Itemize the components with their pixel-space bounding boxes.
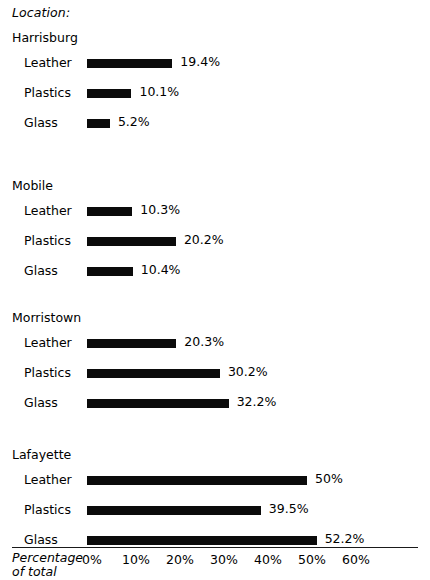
bar-row: Plastics10.1%: [0, 82, 430, 104]
bar-value-label: 39.5%: [269, 501, 309, 516]
x-axis-tick-label: 60%: [342, 552, 370, 567]
bar-row: Plastics30.2%: [0, 362, 430, 384]
x-axis-title-line1: Percentage: [12, 551, 83, 565]
bar-value-label: 10.1%: [139, 84, 179, 99]
bar: [87, 237, 176, 246]
bar-track: [87, 476, 307, 485]
x-axis-tick-label: 40%: [254, 552, 282, 567]
bar-row: Glass10.4%: [0, 260, 430, 282]
bar-value-label: 50%: [315, 471, 343, 486]
bar-value-label: 10.3%: [140, 202, 180, 217]
bar-category-label: Plastics: [24, 502, 71, 517]
bar-category-label: Glass: [24, 263, 58, 278]
bar: [87, 89, 131, 98]
x-axis-tick-label: 20%: [166, 552, 194, 567]
bar-value-label: 10.4%: [141, 262, 181, 277]
group-title: Lafayette: [12, 447, 71, 462]
bar-track: [87, 267, 133, 276]
group-title: Morristown: [12, 310, 81, 325]
x-axis-tick-label: 30%: [210, 552, 238, 567]
bar-row: Leather20.3%: [0, 332, 430, 354]
bar-value-label: 32.2%: [237, 394, 277, 409]
bar-track: [87, 59, 172, 68]
bar: [87, 506, 261, 515]
bar-category-label: Plastics: [24, 365, 71, 380]
bar-row: Glass32.2%: [0, 392, 430, 414]
bar-row: Glass5.2%: [0, 112, 430, 134]
bar-value-label: 5.2%: [118, 114, 150, 129]
bar-category-label: Leather: [24, 472, 72, 487]
x-axis-title-line2: of total: [12, 565, 83, 579]
bar-row: Plastics39.5%: [0, 499, 430, 521]
bar-track: [87, 237, 176, 246]
bar-category-label: Plastics: [24, 233, 71, 248]
bar: [87, 476, 307, 485]
bar-chart: Location: HarrisburgLeather19.4%Plastics…: [0, 0, 430, 580]
bar: [87, 369, 220, 378]
x-axis-line: [12, 547, 418, 548]
bar-track: [87, 207, 132, 216]
bar-category-label: Leather: [24, 203, 72, 218]
bar-value-label: 30.2%: [228, 364, 268, 379]
bar-category-label: Glass: [24, 532, 58, 547]
bar-value-label: 20.3%: [184, 334, 224, 349]
bar: [87, 399, 229, 408]
chart-group: HarrisburgLeather19.4%Plastics10.1%Glass…: [0, 30, 430, 135]
bar-track: [87, 506, 261, 515]
bar-row: Leather10.3%: [0, 200, 430, 222]
bar-row: Plastics20.2%: [0, 230, 430, 252]
bar-category-label: Leather: [24, 335, 72, 350]
bar-track: [87, 89, 131, 98]
bar-value-label: 20.2%: [184, 232, 224, 247]
bar: [87, 536, 317, 545]
x-axis-title: Percentage of total: [12, 551, 83, 579]
bar-category-label: Glass: [24, 395, 58, 410]
x-axis-tick-label: 10%: [122, 552, 150, 567]
bar: [87, 267, 133, 276]
location-caption: Location:: [12, 5, 70, 20]
bar-value-label: 19.4%: [180, 54, 220, 69]
x-axis-tick-label: 50%: [298, 552, 326, 567]
bar-track: [87, 399, 229, 408]
bar: [87, 59, 172, 68]
bar-track: [87, 536, 317, 545]
chart-group: MobileLeather10.3%Plastics20.2%Glass10.4…: [0, 178, 430, 283]
group-title: Harrisburg: [12, 30, 78, 45]
bar-track: [87, 339, 176, 348]
bar-track: [87, 369, 220, 378]
bar-row: Leather50%: [0, 469, 430, 491]
bar-value-label: 52.2%: [325, 531, 365, 546]
bar-row: Leather19.4%: [0, 52, 430, 74]
bar-track: [87, 119, 110, 128]
x-axis-tick-label: 0%: [82, 552, 102, 567]
bar-category-label: Leather: [24, 55, 72, 70]
chart-group: LafayetteLeather50%Plastics39.5%Glass52.…: [0, 447, 430, 552]
bar: [87, 207, 132, 216]
bar-category-label: Plastics: [24, 85, 71, 100]
group-title: Mobile: [12, 178, 53, 193]
bar: [87, 119, 110, 128]
bar-category-label: Glass: [24, 115, 58, 130]
bar: [87, 339, 176, 348]
chart-group: MorristownLeather20.3%Plastics30.2%Glass…: [0, 310, 430, 415]
